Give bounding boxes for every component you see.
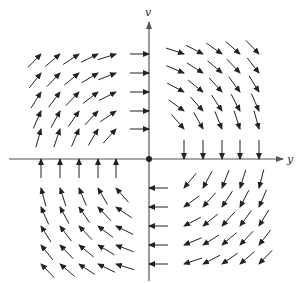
field-arrow (259, 250, 272, 264)
field-arrow (246, 40, 259, 54)
field-arrow (98, 226, 113, 238)
field-arrow (222, 191, 232, 207)
field-arrow (240, 190, 249, 207)
field-arrow (194, 112, 203, 129)
field-arrow (79, 264, 95, 275)
field-arrow (98, 245, 114, 255)
field-arrow (81, 54, 98, 62)
field-arrow (184, 217, 201, 226)
field-arrow (116, 226, 133, 234)
field-arrow (46, 54, 61, 66)
field-arrow (203, 255, 220, 264)
field-arrow (240, 231, 253, 245)
field-arrow (188, 80, 203, 92)
field-arrow (98, 188, 107, 205)
field-arrow (259, 210, 269, 226)
field-arrow (254, 111, 259, 129)
field-arrow (49, 92, 60, 107)
field-arrow (203, 235, 219, 245)
field-arrow (83, 92, 98, 104)
field-arrow (166, 66, 184, 73)
field-arrow (208, 61, 223, 73)
axis-label-y: y (286, 153, 294, 166)
field-arrow (187, 63, 203, 73)
field-arrow (172, 115, 184, 129)
field-arrow (41, 188, 46, 206)
field-arrow (99, 92, 116, 100)
field-arrow (259, 170, 264, 188)
field-arrow (60, 226, 71, 241)
field-arrow (116, 264, 134, 270)
field-arrow (47, 73, 60, 87)
field-arrow (222, 212, 235, 226)
field-arrow (190, 97, 203, 111)
field-arrow (240, 170, 246, 188)
field-arrow (222, 170, 229, 188)
field-arrow (184, 238, 202, 245)
field-arrow (184, 258, 202, 264)
field-arrow (184, 173, 196, 188)
field-arrow (60, 245, 73, 259)
field-arrow (98, 73, 116, 80)
field-arrow (54, 129, 60, 147)
field-arrow (209, 78, 222, 92)
field-arrow (33, 111, 41, 128)
field-arrow (251, 94, 259, 111)
field-arrow (29, 73, 41, 88)
field-arrow (88, 129, 98, 145)
field-arrow (64, 73, 79, 85)
field-arrow (60, 207, 69, 224)
field-arrow (116, 188, 129, 202)
field-arrow (240, 211, 251, 226)
field-arrow (240, 252, 254, 264)
field-arrow (41, 245, 53, 260)
field-arrow (51, 111, 60, 128)
field-arrow (249, 76, 259, 92)
field-arrow (31, 92, 41, 108)
field-arrow (66, 92, 79, 106)
field-arrow (234, 111, 240, 129)
field-arrow (259, 190, 267, 207)
field-arrow (222, 233, 237, 245)
field-arrow (82, 73, 98, 83)
field-arrow (79, 245, 94, 257)
field-arrow (186, 45, 203, 54)
field-arrow (167, 83, 184, 92)
field-arrow (103, 129, 116, 143)
field-arrow (68, 111, 79, 127)
field-arrow (41, 264, 54, 278)
field-arrow (36, 129, 41, 147)
field-arrow (63, 54, 79, 65)
field-arrow (231, 94, 240, 111)
field-arrow (116, 207, 132, 218)
field-arrow (79, 207, 90, 223)
field-arrow (169, 100, 184, 111)
equilibrium-point (146, 156, 152, 162)
field-arrow (85, 111, 98, 125)
field-arrow (226, 42, 240, 54)
field-arrow (60, 264, 75, 276)
field-arrow (79, 188, 86, 206)
field-arrow (184, 196, 199, 207)
field-arrow (222, 253, 238, 264)
field-arrow (227, 59, 240, 73)
field-arrow (215, 111, 222, 129)
field-arrow (79, 226, 92, 240)
axis-label-v: v (145, 6, 152, 19)
field-arrow (72, 129, 80, 147)
field-arrow (116, 245, 134, 252)
field-arrow (100, 111, 116, 122)
field-arrow (41, 226, 51, 242)
field-arrow (229, 77, 240, 92)
field-arrow (203, 171, 212, 188)
field-arrow (98, 207, 111, 221)
field-arrow (166, 48, 184, 54)
vector-field-plot: y v (0, 0, 301, 283)
field-arrow (212, 95, 222, 111)
field-arrow (41, 207, 49, 224)
field-arrow (98, 54, 116, 60)
field-arrow (28, 54, 41, 68)
field-arrow (259, 230, 271, 245)
field-arrow (203, 193, 216, 207)
vector-field-figure: y v (0, 0, 301, 283)
